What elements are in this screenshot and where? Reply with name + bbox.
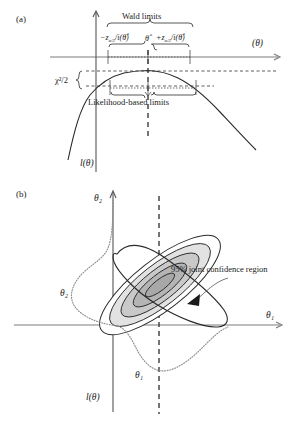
panel-b-label: (b) — [16, 189, 27, 199]
wald-right-limit-formula: +zα/2/i(θ̂) — [156, 33, 185, 43]
panel-b-y-axis-label: θ₂ — [94, 193, 103, 203]
confidence-region-arrowhead — [187, 294, 200, 306]
confidence-region-annotation: 95% joint confidence region — [171, 264, 268, 274]
wald-interval-bars — [108, 41, 190, 64]
panel-a-label: (a) — [16, 14, 26, 24]
figure-canvas: (a) (θ) Wald limits −zα/2/i(θ̂) θ̂ +zα/2… — [0, 0, 296, 422]
profile-theta1-label: θ₁ — [135, 370, 143, 380]
panel-b-x-axis-label: θ₁ — [266, 310, 274, 320]
chisq-brace — [76, 71, 82, 89]
likelihood-limits-label: Likelihood-based limits — [88, 97, 169, 107]
panel-b-curve-label: l(θ) — [86, 392, 100, 403]
joint-confidence-contours — [86, 220, 233, 351]
profile-theta2-label: θ₂ — [60, 288, 69, 298]
mle-estimate-label: θ̂ — [145, 34, 152, 43]
profile-likelihood-theta1 — [113, 325, 228, 371]
wald-limits-label: Wald limits — [122, 11, 161, 21]
figure-root: (a) (θ) Wald limits −zα/2/i(θ̂) θ̂ +zα/2… — [0, 0, 296, 422]
wald-limit-formulas: −zα/2/i(θ̂) θ̂ +zα/2/i(θ̂) — [100, 33, 185, 43]
likelihood-limits-bars — [110, 80, 196, 98]
wald-left-limit-formula: −zα/2/i(θ̂) — [100, 33, 129, 43]
panel-a-x-axis-label: (θ) — [252, 38, 263, 49]
panel-a: (a) (θ) Wald limits −zα/2/i(θ̂) θ̂ +zα/2… — [16, 11, 280, 172]
chisq-label: χ²/2 — [54, 75, 68, 85]
panel-b: (b) θ₂ θ₁ θ₂ — [14, 189, 282, 414]
panel-a-curve-label: l(θ) — [80, 158, 94, 169]
